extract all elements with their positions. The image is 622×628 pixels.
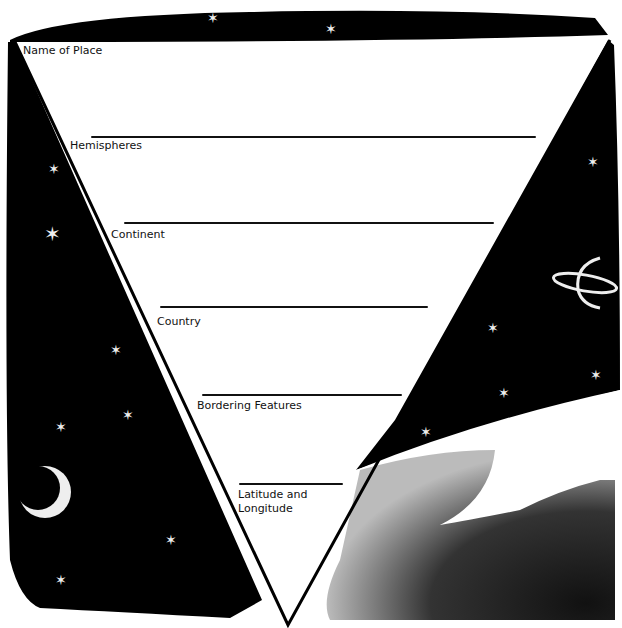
left-night-sky <box>6 42 262 618</box>
svg-text:✶: ✶ <box>55 419 67 435</box>
svg-text:✶: ✶ <box>420 424 432 440</box>
svg-text:✶: ✶ <box>48 161 60 177</box>
svg-text:✶: ✶ <box>122 407 134 423</box>
svg-text:✶: ✶ <box>487 320 499 336</box>
bordering-features-label: Bordering Features <box>197 399 302 413</box>
latitude-longitude-line <box>239 483 343 485</box>
bordering-features-line <box>202 394 402 396</box>
svg-text:✶: ✶ <box>325 21 337 37</box>
hemispheres-label: Hemispheres <box>70 139 142 153</box>
svg-text:✶: ✶ <box>165 532 177 548</box>
latitude-label: Latitude and <box>238 488 307 502</box>
svg-text:✶: ✶ <box>110 342 122 358</box>
svg-text:✶: ✶ <box>590 367 602 383</box>
svg-text:✶: ✶ <box>498 385 510 401</box>
continent-line <box>124 222 494 224</box>
svg-text:✶: ✶ <box>207 10 219 26</box>
country-label: Country <box>157 315 201 329</box>
top-night-band <box>10 11 608 42</box>
svg-text:✶: ✶ <box>55 572 67 588</box>
country-line <box>160 306 428 308</box>
continent-label: Continent <box>111 228 165 242</box>
hemispheres-line <box>91 136 536 138</box>
svg-text:✶: ✶ <box>44 222 61 246</box>
name-of-place-label: Name of Place <box>23 44 102 58</box>
space-background: ✶ ✶ ✶ ✶ ✶ ✶ ✶ ✶ ✶ ✶ ✶ ✶ ✶ ✶ <box>0 0 622 628</box>
svg-text:✶: ✶ <box>587 154 599 170</box>
longitude-label: Longitude <box>238 502 293 516</box>
